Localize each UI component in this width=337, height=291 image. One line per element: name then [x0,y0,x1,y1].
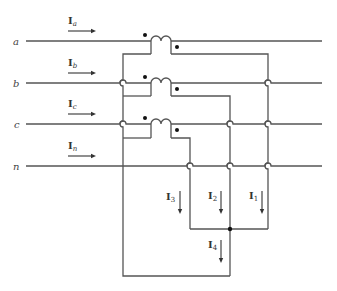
line-label-c: c [14,119,20,130]
current-label-i4: I4 [208,239,218,252]
current-arrow-n [68,154,96,158]
polarity-dot-c-primary [143,116,147,120]
current-arrow-i2 [219,191,223,214]
line-label-b: b [13,78,19,89]
polarity-dot-a-primary [143,33,147,37]
polarity-dot-c-secondary [175,128,179,132]
line-n-wire [26,163,322,166]
current-label-i1: I1 [249,190,258,203]
current-arrow-i4 [219,240,223,263]
line-b-wire [26,80,322,83]
current-label-a: Ia [68,15,77,28]
ct-coil-a [143,33,179,54]
current-label-b: Ib [68,57,78,70]
polarity-dot-b-primary [143,75,147,79]
current-arrow-i1 [260,191,264,214]
circuit-diagram: a b c n Ia Ib Ic In [0,0,337,291]
current-label-n: In [68,140,78,153]
current-label-i2: I2 [208,190,217,203]
current-arrow-i3 [178,191,182,214]
polarity-dot-b-secondary [175,87,179,91]
current-label-c: Ic [68,98,77,111]
line-c-wire [26,121,322,124]
current-arrow-c [68,112,96,116]
polarity-dot-a-secondary [175,45,179,49]
secondary-c-lead [171,138,190,229]
line-label-a: a [13,36,19,47]
return-bus-left [120,54,230,276]
ct-coil-b [143,75,179,96]
current-label-i3: I3 [166,191,175,204]
line-label-n: n [13,161,19,172]
current-arrow-a [68,29,96,33]
current-arrow-b [68,71,96,75]
junction-dot [228,227,232,231]
ct-coil-c [143,116,179,138]
